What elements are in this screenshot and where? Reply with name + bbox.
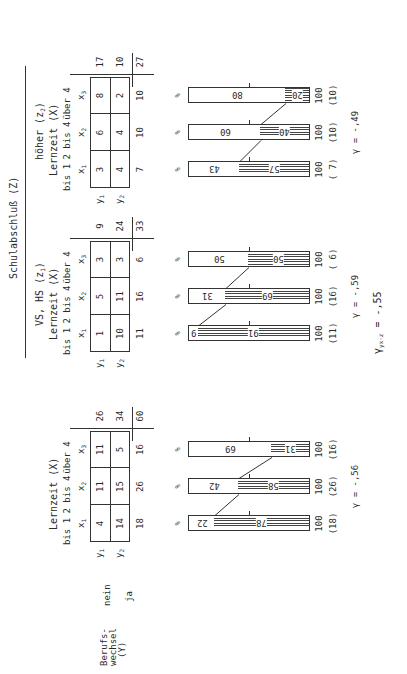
gamma-value: γ = -,59 <box>350 241 360 352</box>
trend-connector <box>0 52 407 212</box>
row-variable-label: Berufs- wechsel (Y) <box>100 628 127 666</box>
panel-total: Lernzeit (X)bis 1x12 bis 4x2über 4x3y141… <box>0 406 407 566</box>
y1-label: nein <box>102 584 112 606</box>
panel-z2: Lernzeit (X)bis 1x12 bis 4x2über 4x3y136… <box>0 52 407 212</box>
y2-label: ja <box>124 591 134 602</box>
gamma-value: γ = -,56 <box>350 431 360 542</box>
trend-connector <box>0 406 407 566</box>
gamma-value: γ = -,49 <box>350 77 360 188</box>
rotated-page: Schulabschluß (Z) VS, HS (z1) höher (z2)… <box>0 0 407 674</box>
partial-gamma: γyx·z = -,55 <box>372 291 384 354</box>
trend-connector <box>0 216 407 376</box>
panel-z1: Lernzeit (X)bis 1x12 bis 4x2über 4x3y115… <box>0 216 407 376</box>
